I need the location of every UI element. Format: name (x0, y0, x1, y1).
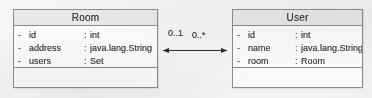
uml-class-user[interactable]: User - id : int - name : java.lang.Strin… (232, 9, 363, 88)
attribute-name: name (248, 43, 295, 53)
uml-class-room-attributes: - id : int - address : java.lang.String … (14, 26, 157, 68)
multiplicity-target-label: 0..* (192, 30, 206, 40)
uml-class-room-title: Room (14, 10, 157, 26)
multiplicity-source-label: 0..1 (168, 28, 183, 38)
attribute-row: - id : int (233, 28, 362, 41)
association-connector[interactable] (158, 40, 232, 62)
uml-class-user-title: User (233, 10, 362, 26)
attribute-name: id (248, 30, 295, 40)
attribute-type: Room (301, 56, 362, 66)
attribute-visibility: - (14, 56, 29, 66)
attribute-row: - users : Set (14, 54, 157, 67)
uml-class-room-operations (14, 68, 157, 87)
uml-class-user-operations (233, 68, 362, 87)
attribute-row: - id : int (14, 28, 157, 41)
attribute-name: users (29, 56, 84, 66)
attribute-type: int (301, 30, 362, 40)
attribute-visibility: - (233, 56, 248, 66)
attribute-visibility: - (14, 43, 29, 53)
attribute-name: id (29, 30, 84, 40)
attribute-visibility: - (14, 30, 29, 40)
attribute-name: address (29, 43, 84, 53)
attribute-name: room (248, 56, 295, 66)
attribute-visibility: - (233, 43, 248, 53)
attribute-type: java.lang.String (301, 43, 362, 53)
attribute-type: java.lang.String (90, 43, 157, 53)
attribute-type: int (90, 30, 157, 40)
attribute-row: - name : java.lang.String (233, 41, 362, 54)
diagram-canvas: Room - id : int - address : java.lang.St… (0, 0, 372, 98)
attribute-row: - room : Room (233, 54, 362, 67)
attribute-visibility: - (233, 30, 248, 40)
attribute-type: Set (90, 56, 157, 66)
uml-class-room[interactable]: Room - id : int - address : java.lang.St… (13, 9, 158, 88)
attribute-row: - address : java.lang.String (14, 41, 157, 54)
uml-class-user-attributes: - id : int - name : java.lang.String - r… (233, 26, 362, 68)
association-line-icon (158, 40, 232, 62)
